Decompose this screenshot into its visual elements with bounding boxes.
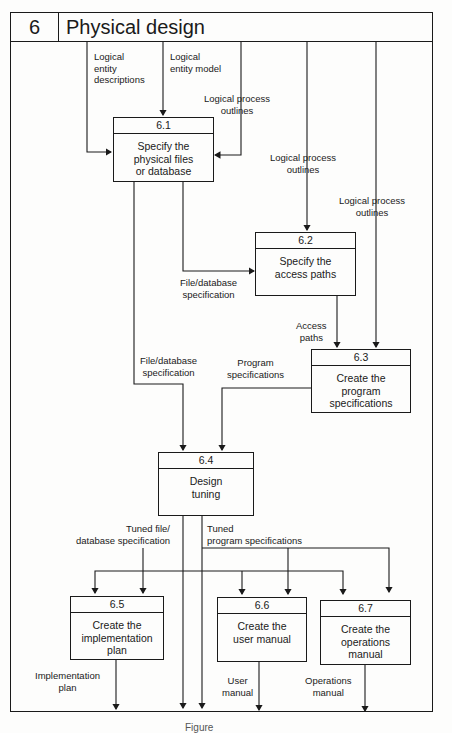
process-id: 6.7 xyxy=(321,601,410,617)
flow-label-logical-process-outlines-1: Logical process outlines xyxy=(204,93,270,116)
process-6-7[interactable]: 6.7 Create the operations manual xyxy=(320,600,411,665)
flow-label-tuned-program-specs: Tuned program specifications xyxy=(207,523,302,546)
flow-label-operations-manual: Operations manual xyxy=(305,675,351,698)
process-label: Create the program specifications xyxy=(312,366,410,410)
process-6-6[interactable]: 6.6 Create the user manual xyxy=(217,597,307,662)
flow-label-logical-process-outlines-3: Logical process outlines xyxy=(339,195,405,218)
process-6-3[interactable]: 6.3 Create the program specifications xyxy=(311,349,411,413)
flow-label-tuned-file-db-spec: Tuned file/ database specification xyxy=(76,523,170,546)
flow-label-access-paths: Access paths xyxy=(296,320,327,343)
process-label: Create the user manual xyxy=(218,614,306,645)
process-label: Specify the access paths xyxy=(256,249,355,280)
flow-label-logical-entity-model: Logical entity model xyxy=(170,51,221,74)
process-id: 6.6 xyxy=(218,598,306,614)
flow-label-user-manual: User manual xyxy=(222,675,253,698)
flow-label-implementation-plan: Implementation plan xyxy=(35,670,100,693)
process-label: Design tuning xyxy=(159,469,253,500)
process-id: 6.1 xyxy=(114,118,213,134)
process-label: Create the operations manual xyxy=(321,617,410,661)
flow-label-file-database-spec-to-6-2: File/database specification xyxy=(180,277,237,300)
flow-label-file-database-spec-to-6-4: File/database specification xyxy=(140,355,197,378)
flow-label-logical-process-outlines-2: Logical process outlines xyxy=(270,152,336,175)
process-id: 6.3 xyxy=(312,350,410,366)
process-id: 6.2 xyxy=(256,233,355,249)
process-label: Specify the physical files or database xyxy=(114,134,213,178)
flow-label-logical-entity-descriptions: Logical entity descriptions xyxy=(94,51,145,86)
process-6-5[interactable]: 6.5 Create the implementation plan xyxy=(70,596,164,660)
process-6-4[interactable]: 6.4 Design tuning xyxy=(158,452,254,516)
process-label: Create the implementation plan xyxy=(71,613,163,657)
process-id: 6.4 xyxy=(159,453,253,469)
process-6-1[interactable]: 6.1 Specify the physical files or databa… xyxy=(113,117,214,182)
figure-caption: Figure xyxy=(185,722,213,733)
process-id: 6.5 xyxy=(71,597,163,613)
flow-label-program-specifications: Program specifications xyxy=(227,357,284,380)
process-6-2[interactable]: 6.2 Specify the access paths xyxy=(255,232,356,296)
